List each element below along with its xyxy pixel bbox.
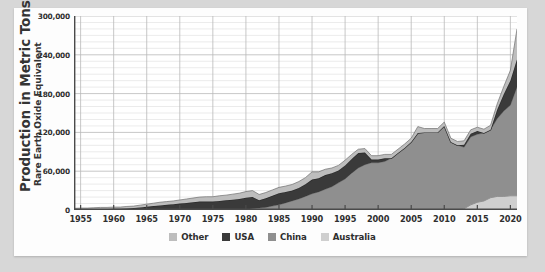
legend-swatch-icon <box>268 233 276 241</box>
x-axis-tick-label: 2000 <box>367 214 389 224</box>
y-axis-tick-label: 300,000 <box>28 12 70 21</box>
legend-swatch-icon <box>222 233 230 241</box>
x-axis-tick-label: 1955 <box>69 214 91 224</box>
y-axis-tick-label: 60,000 <box>28 167 70 176</box>
legend-label: China <box>280 232 307 242</box>
legend-item-other[interactable]: Other <box>169 232 208 242</box>
x-axis-tick-label: 2015 <box>466 214 488 224</box>
x-axis-tick-label: 1965 <box>135 214 157 224</box>
y-axis-tick-labels: 060,000120,000180,000240,000300,000 <box>26 16 70 210</box>
legend-item-australia[interactable]: Australia <box>321 232 376 242</box>
plot-area <box>74 16 517 210</box>
x-axis-tick-label: 1980 <box>235 214 257 224</box>
legend-swatch-icon <box>169 233 177 241</box>
legend-swatch-icon <box>321 233 329 241</box>
chart-legend: OtherUSAChinaAustralia <box>0 232 545 242</box>
x-axis-tick-label: 1960 <box>102 214 124 224</box>
chart-screenshot: Production in Metric Tons Rare Earth Oxi… <box>0 0 545 272</box>
y-axis-tick-label: 120,000 <box>28 128 70 137</box>
legend-label: Other <box>181 232 208 242</box>
x-axis-tick-label: 2010 <box>433 214 455 224</box>
x-axis-tick-label: 1975 <box>202 214 224 224</box>
y-axis-tick-label: 180,000 <box>28 89 70 98</box>
x-axis-tick-labels: 1955196019651970197519801985199019952000… <box>74 214 517 230</box>
legend-label: Australia <box>333 232 376 242</box>
x-axis-tick-label: 1990 <box>301 214 323 224</box>
legend-item-china[interactable]: China <box>268 232 307 242</box>
x-axis-tick-label: 1995 <box>334 214 356 224</box>
legend-label: USA <box>234 232 254 242</box>
x-axis-tick-label: 1970 <box>169 214 191 224</box>
stacked-area-chart <box>74 16 517 210</box>
y-axis-tick-label: 240,000 <box>28 50 70 59</box>
x-axis-tick-label: 2005 <box>400 214 422 224</box>
y-axis-tick-label: 0 <box>28 206 70 215</box>
legend-item-usa[interactable]: USA <box>222 232 254 242</box>
x-axis-tick-label: 1985 <box>268 214 290 224</box>
x-axis-tick-label: 2020 <box>499 214 521 224</box>
